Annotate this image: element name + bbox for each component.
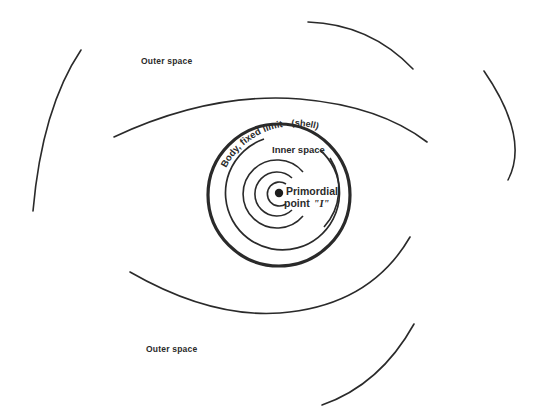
outer-space-label-bottom: Outer space	[146, 344, 197, 354]
inner-space-label: Inner space	[272, 144, 325, 155]
arc-upper-right	[308, 22, 413, 69]
primordial-point-label: Primordial point "I"	[286, 185, 338, 210]
primordial-symbol: "I"	[314, 198, 330, 209]
primordial-line-2: point "I"	[284, 197, 338, 210]
arc-upper-left	[33, 50, 81, 211]
outer-space-label-top: Outer space	[141, 56, 192, 66]
diagram-canvas: Body, fixed limit (shell)	[0, 0, 544, 414]
arc-lower-right	[322, 324, 414, 405]
primordial-point-word: point	[284, 197, 310, 209]
outer-boundary-arcs	[33, 22, 515, 405]
primordial-point-dot	[275, 189, 283, 197]
eye-arc-top	[114, 98, 427, 142]
arc-right	[484, 71, 515, 180]
primordial-line-1: Primordial	[286, 185, 338, 197]
